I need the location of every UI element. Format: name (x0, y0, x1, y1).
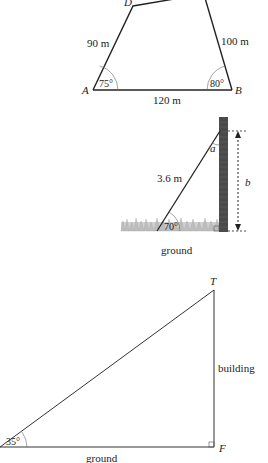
vertex-A-label: A (81, 84, 89, 96)
angle-a-label: a (210, 142, 216, 154)
angle-arc-35 (22, 432, 27, 447)
quadrilateral-figure: D A B 90 m 100 m 120 m 75° 80° (81, 0, 249, 106)
hypotenuse-line (0, 290, 214, 447)
vertex-F-label: F (218, 442, 226, 454)
arrow-up-icon (235, 131, 241, 138)
ladder-length-label: 3.6 m (157, 172, 183, 184)
angle-35-label: 35° (6, 436, 20, 447)
side-BC-label: 100 m (221, 35, 249, 47)
right-angle-marker-F (209, 442, 214, 447)
brick-wall (219, 117, 228, 232)
ladder-figure: 3.6 m a 70° b ground (121, 117, 251, 256)
angle-70-label: 70° (164, 221, 178, 232)
building-label: building (218, 362, 255, 374)
height-b-label: b (245, 176, 251, 188)
vertex-T-label: T (210, 275, 217, 287)
side-AD-label: 90 m (87, 37, 110, 49)
ground-label-3: ground (86, 452, 118, 463)
building-triangle-figure: T F building ground 35° (0, 275, 255, 463)
angle-A-label: 75° (99, 78, 113, 89)
ground-label-2: ground (161, 244, 193, 256)
vertex-B-label: B (235, 84, 242, 96)
side-AB-label: 120 m (153, 94, 181, 106)
arrow-down-icon (235, 224, 241, 231)
angle-B-label: 80° (210, 78, 224, 89)
vertex-D-label: D (123, 0, 132, 8)
diagrams-canvas: D A B 90 m 100 m 120 m 75° 80° (0, 0, 268, 463)
